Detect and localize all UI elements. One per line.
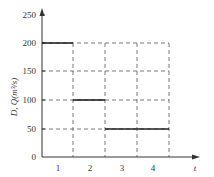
grid-lines: [42, 43, 169, 157]
x-axis-arrow-icon: [192, 155, 200, 160]
axes: [42, 12, 195, 157]
y-tick-100: 100: [23, 95, 37, 105]
x-tick-3: 3: [120, 163, 125, 173]
y-axis-label: D, Q(m³/s): [9, 78, 19, 118]
x-tick-1: 1: [56, 163, 61, 173]
x-tick-4: 4: [151, 163, 156, 173]
series-dq: [42, 43, 169, 129]
y-tick-0: 0: [32, 152, 37, 162]
y-tick-250: 250: [23, 10, 37, 20]
y-tick-200: 200: [23, 38, 37, 48]
x-axis-label: t: [194, 163, 197, 173]
x-tick-2: 2: [88, 163, 93, 173]
y-tick-50: 50: [27, 124, 37, 134]
y-tick-150: 150: [23, 66, 37, 76]
step-chart: 0 50 100 150 200 250 1 2 3 4 t D, Q(m³/s…: [0, 0, 214, 177]
